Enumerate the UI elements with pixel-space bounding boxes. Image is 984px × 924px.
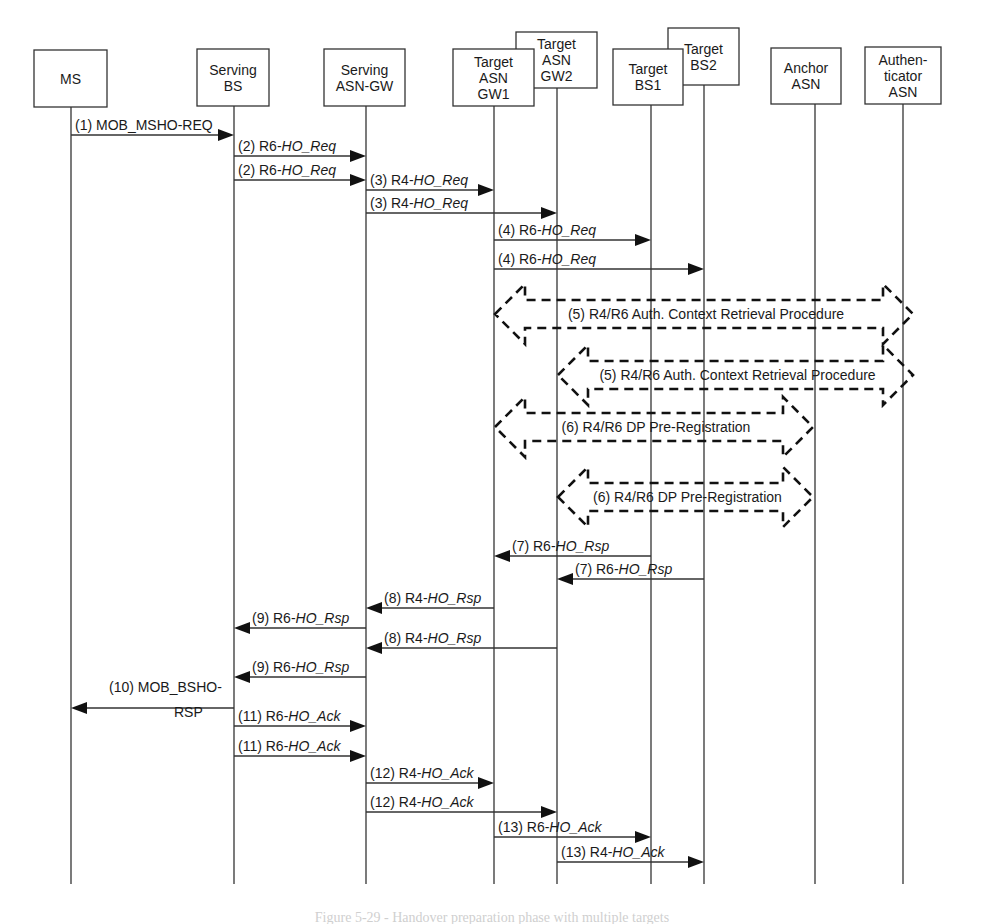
message-label: (3) R4-HO_Req [370, 172, 468, 188]
message-label: (4) R6-HO_Req [498, 222, 596, 238]
entity-label: BS2 [690, 57, 717, 73]
entity-label: ticator [884, 68, 922, 84]
entity-label: ASN [889, 84, 918, 100]
entity-label: GW2 [541, 68, 573, 84]
message-label: (2) R6-HO_Req [238, 138, 336, 154]
entity-label: Authen- [878, 52, 927, 68]
message-12: (8) R4-HO_Rsp [366, 630, 557, 654]
message-18: (12) R4-HO_Ack [366, 794, 557, 818]
message-label: (12) R4-HO_Ack [370, 765, 474, 781]
entity-label: BS [224, 78, 243, 94]
message-13: (9) R6-HO_Rsp [234, 659, 366, 683]
arrowhead-icon [541, 207, 557, 219]
arrowhead-icon [635, 831, 651, 843]
entity-label: Serving [209, 62, 256, 78]
message-19: (13) R6-HO_Ack [494, 819, 651, 843]
entity-target-asn-gw1: TargetASNGW1 [453, 49, 534, 106]
message-9: (7) R6-HO_Rsp [557, 561, 704, 585]
figure-caption: Figure 5-29 - Handover preparation phase… [315, 910, 669, 924]
sequence-diagram: MSServingBSServingASN-GWTargetASNGW2Targ… [0, 0, 984, 924]
entity-serving-bs: ServingBS [197, 49, 269, 106]
message-16: (11) R6-HO_Ack [234, 738, 366, 762]
message-label: (11) R6-HO_Ack [238, 708, 341, 724]
message-label: (1) MOB_MSHO-REQ [75, 117, 213, 133]
entity-label: ASN [479, 70, 508, 86]
arrowhead-icon [234, 671, 250, 683]
procedure-label: (5) R4/R6 Auth. Context Retrieval Proced… [568, 306, 844, 322]
arrowhead-icon [71, 702, 87, 714]
message-label: (10) MOB_BSHO- [109, 679, 222, 695]
procedure-label: (5) R4/R6 Auth. Context Retrieval Proced… [599, 367, 875, 383]
message-5: (3) R4-HO_Req [366, 195, 557, 219]
arrowhead-icon [350, 174, 366, 186]
arrowhead-icon [478, 777, 494, 789]
message-label: (4) R6-HO_Req [498, 251, 596, 267]
message-20: (13) R4-HO_Ack [557, 844, 704, 868]
entity-label: Serving [341, 62, 388, 78]
entity-label: Anchor [784, 60, 829, 76]
message-10: (8) R4-HO_Rsp [366, 590, 494, 614]
arrowhead-icon [366, 642, 382, 654]
arrowhead-icon [688, 263, 704, 275]
entity-label: ASN-GW [336, 78, 394, 94]
message-7: (4) R6-HO_Req [494, 251, 704, 275]
entity-serving-asn-gw: ServingASN-GW [324, 49, 405, 106]
arrowhead-icon [635, 234, 651, 246]
arrowhead-icon [478, 184, 494, 196]
arrowhead-icon [557, 573, 573, 585]
message-label: (12) R4-HO_Ack [370, 794, 474, 810]
arrowhead-icon [350, 720, 366, 732]
entity-label: BS1 [635, 77, 662, 93]
message-label: (13) R4-HO_Ack [561, 844, 665, 860]
arrowhead-icon [234, 622, 250, 634]
entity-label: Target [629, 61, 668, 77]
message-8: (7) R6-HO_Rsp [494, 538, 651, 562]
message-6: (4) R6-HO_Req [494, 222, 651, 246]
procedure-3: (6) R4/R6 DP Pre-Registration [495, 397, 813, 457]
message-3: (2) R6-HO_Req [234, 162, 366, 186]
message-11: (9) R6-HO_Rsp [234, 610, 366, 634]
message-label: (9) R6-HO_Rsp [252, 659, 349, 675]
message-label: (3) R4-HO_Req [370, 195, 468, 211]
message-14: (10) MOB_BSHO-RSP [71, 679, 234, 720]
procedure-label: (6) R4/R6 DP Pre-Registration [593, 489, 782, 505]
message-label: (8) R4-HO_Rsp [384, 590, 481, 606]
entity-label: Target [537, 36, 576, 52]
message-15: (11) R6-HO_Ack [234, 708, 366, 732]
entity-label: GW1 [478, 86, 510, 102]
message-label: (9) R6-HO_Rsp [252, 610, 349, 626]
message-label-cont: RSP [174, 704, 203, 720]
procedure-2: (5) R4/R6 Auth. Context Retrieval Proced… [558, 345, 913, 405]
message-label: (13) R6-HO_Ack [498, 819, 602, 835]
message-17: (12) R4-HO_Ack [366, 765, 494, 789]
message-label: (7) R6-HO_Rsp [512, 538, 609, 554]
message-4: (3) R4-HO_Req [366, 172, 494, 196]
message-label: (2) R6-HO_Req [238, 162, 336, 178]
arrowhead-icon [350, 750, 366, 762]
entity-label: ASN [792, 76, 821, 92]
entity-boxes: MSServingBSServingASN-GWTargetASNGW2Targ… [34, 28, 941, 107]
entity-ms: MS [34, 50, 107, 107]
arrowhead-icon [218, 129, 234, 141]
entity-label: Target [684, 41, 723, 57]
message-1: (1) MOB_MSHO-REQ [71, 117, 234, 141]
arrowhead-icon [541, 806, 557, 818]
arrowhead-icon [688, 856, 704, 868]
entity-target-bs1: TargetBS1 [613, 49, 683, 105]
arrowhead-icon [494, 550, 510, 562]
message-label: (8) R4-HO_Rsp [384, 630, 481, 646]
message-label: (7) R6-HO_Rsp [575, 561, 672, 577]
entity-label: MS [60, 71, 81, 87]
arrowhead-icon [366, 602, 382, 614]
arrowhead-icon [350, 150, 366, 162]
message-2: (2) R6-HO_Req [234, 138, 366, 162]
procedure-label: (6) R4/R6 DP Pre-Registration [562, 419, 751, 435]
entity-anchor-asn: AnchorASN [771, 48, 841, 104]
entity-label: Target [474, 54, 513, 70]
message-label: (11) R6-HO_Ack [238, 738, 341, 754]
entity-label: ASN [542, 52, 571, 68]
procedure-4: (6) R4/R6 DP Pre-Registration [558, 467, 813, 527]
entity-authenticator-asn: Authen-ticatorASN [865, 47, 941, 104]
